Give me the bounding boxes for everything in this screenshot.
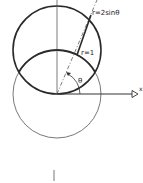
unit-circle-label: r=1 <box>81 49 94 57</box>
upper-curve-label: r=2sinθ <box>92 9 120 17</box>
x-axis-label: x <box>139 85 143 92</box>
theta-ray <box>57 0 97 94</box>
x-axis-arrow-icon <box>132 91 138 98</box>
polar-diagram: x θ r=1 r=2sinθ <box>0 0 143 183</box>
theta-label: θ <box>78 77 82 85</box>
